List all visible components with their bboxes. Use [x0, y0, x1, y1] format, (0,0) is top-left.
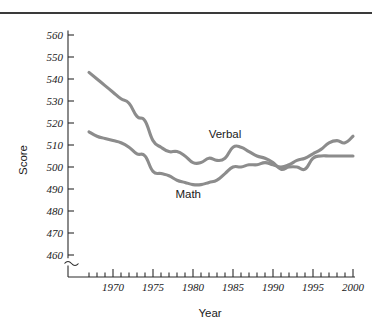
x-axis: 1970197519801985199019952000 [68, 269, 365, 293]
sat-score-chart-figure: 460470480490500510520530540550560 197019… [0, 0, 372, 329]
series-label-verbal: Verbal [209, 128, 242, 140]
y-tick-label: 490 [47, 183, 64, 195]
x-tick-label: 1970 [102, 281, 125, 293]
y-tick-label: 550 [47, 51, 64, 63]
y-tick-label: 510 [47, 139, 64, 151]
series-label-math: Math [175, 188, 201, 200]
y-tick-label: 520 [47, 117, 64, 129]
x-tick-label: 1985 [222, 281, 245, 293]
y-tick-label: 560 [47, 29, 64, 41]
y-tick-label: 540 [47, 73, 64, 85]
chart-plot-area: 460470480490500510520530540550560 197019… [0, 0, 372, 329]
x-axis-title: Year [198, 307, 221, 319]
y-axis: 460470480490500510520530540550560 [47, 29, 79, 277]
series-annotations: VerbalMath [175, 128, 241, 199]
y-tick-label: 460 [47, 249, 64, 261]
y-tick-label: 480 [47, 205, 64, 217]
y-tick-label: 470 [47, 227, 64, 239]
x-tick-label: 2000 [342, 281, 365, 293]
y-axis-title: Score [17, 145, 29, 175]
x-tick-label: 1990 [262, 281, 285, 293]
y-tick-label: 530 [47, 95, 64, 107]
x-tick-label: 1975 [142, 281, 165, 293]
x-tick-label: 1995 [302, 281, 325, 293]
x-tick-label: 1980 [182, 281, 205, 293]
y-tick-label: 500 [47, 161, 64, 173]
